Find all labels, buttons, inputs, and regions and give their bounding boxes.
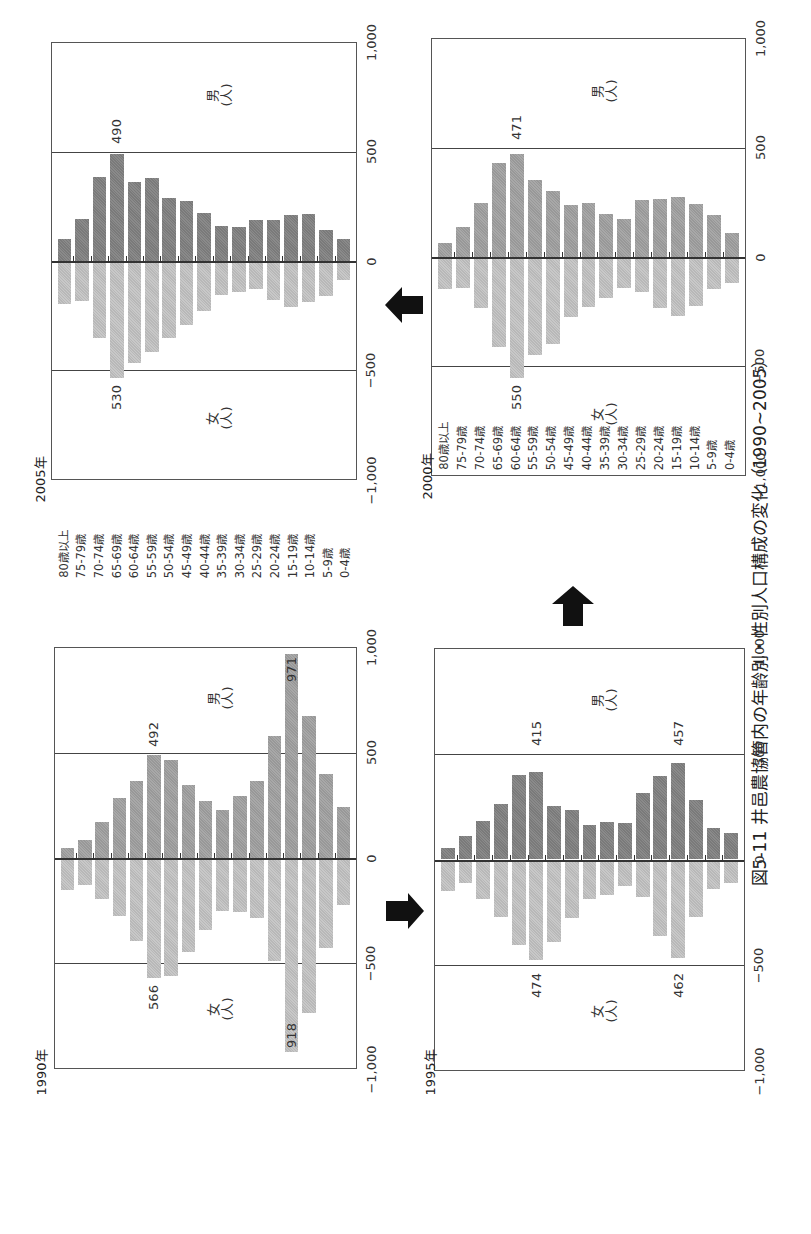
age-group-label: 75-79歳 — [456, 426, 468, 470]
bar-female — [128, 262, 142, 363]
age-group-label: 50-54歳 — [164, 534, 176, 578]
bar-female — [249, 262, 263, 289]
bar-female — [547, 861, 561, 943]
gridline-minus500 — [52, 370, 356, 371]
axis-tick — [472, 252, 473, 257]
axis-tick — [687, 855, 688, 860]
age-group-label: 45-49歳 — [181, 534, 193, 578]
age-group-label: 25-29歳 — [252, 534, 264, 578]
bar-male — [337, 239, 351, 261]
bar-male — [249, 220, 263, 261]
bar-female — [268, 859, 281, 961]
bar-male — [215, 226, 229, 261]
bar-male — [197, 213, 211, 261]
bar-male — [95, 822, 108, 858]
age-group-label: 35-39歳 — [599, 426, 611, 470]
age-group-label: 20-24歳 — [653, 426, 665, 470]
value-label: 471 — [509, 115, 524, 140]
bar-male — [653, 199, 667, 257]
bar-male — [689, 204, 703, 257]
bar-male — [268, 736, 281, 858]
bar-female — [583, 861, 597, 900]
bar-male — [164, 760, 177, 858]
bar-female — [600, 861, 614, 896]
zero-axis-line — [52, 261, 356, 263]
bar-male — [671, 197, 685, 257]
age-group-label: 55-59歳 — [528, 426, 540, 470]
bar-female — [618, 861, 632, 886]
bar-female — [215, 262, 229, 295]
unit-label-text: (人) — [221, 998, 235, 1021]
axis-tick — [73, 256, 74, 261]
unit-label-text: (人) — [604, 80, 618, 103]
gridline-minus500 — [435, 965, 744, 966]
bar-male — [494, 804, 508, 859]
bar-male — [689, 800, 703, 859]
value-label: 550 — [509, 385, 524, 410]
bar-male — [635, 200, 649, 257]
bar-male — [302, 214, 316, 261]
bar-female — [147, 859, 160, 978]
bar-female — [565, 861, 579, 918]
age-group-label: 30-34歳 — [617, 426, 629, 470]
bar-female — [130, 859, 143, 941]
bar-female — [724, 861, 738, 884]
bar-female — [267, 262, 281, 300]
bar-female — [636, 861, 650, 897]
pyramid-panel-2000: 471550男(人)女(人) — [431, 38, 746, 476]
bar-male — [337, 807, 350, 858]
bar-male — [58, 239, 72, 261]
bar-male — [180, 201, 194, 261]
male-label: 男(人) — [205, 84, 233, 107]
bar-male — [232, 227, 246, 261]
axis-tick — [544, 252, 545, 257]
bar-male — [599, 214, 613, 257]
bar-male — [145, 178, 159, 261]
axis-tick-label: 500 — [752, 135, 767, 160]
axis-tick — [454, 252, 455, 257]
bar-female — [546, 258, 560, 344]
bar-female — [216, 859, 229, 911]
age-group-label: 5-9歳 — [706, 440, 718, 470]
age-group-label: 35-39歳 — [216, 534, 228, 578]
axis-tick-label: 0 — [364, 257, 379, 265]
axis-tick — [213, 256, 214, 261]
axis-tick-label: −1,000 — [752, 1047, 767, 1095]
gridline-plus500 — [52, 152, 356, 153]
axis-tick — [705, 855, 706, 860]
bar-female — [582, 258, 596, 307]
axis-tick-label: 500 — [363, 740, 378, 765]
axis-tick — [687, 252, 688, 257]
pyramid-panel-1990: 492566971918男(人)女(人) — [54, 647, 357, 1069]
axis-tick — [492, 855, 493, 860]
axis-tick — [669, 855, 670, 860]
bar-male — [583, 825, 597, 860]
axis-tick — [195, 256, 196, 261]
bar-female — [474, 258, 488, 308]
bar-male — [319, 774, 332, 858]
axis-tick — [457, 855, 458, 860]
age-group-label: 0-4歳 — [339, 548, 351, 578]
axis-tick — [474, 855, 475, 860]
axis-tick-label: 1,000 — [753, 19, 768, 56]
zero-axis-line — [435, 860, 744, 862]
age-group-label: 5-9歳 — [322, 548, 334, 578]
bar-male — [456, 227, 470, 257]
sex-label-text: 男 — [590, 80, 604, 103]
age-group-label: 75-79歳 — [76, 534, 88, 578]
value-label: 415 — [529, 721, 544, 746]
year-label-2005: 2005年 — [30, 456, 49, 502]
bar-female — [456, 258, 470, 288]
bar-male — [617, 219, 631, 257]
bar-male — [476, 821, 490, 860]
axis-tick — [705, 252, 706, 257]
age-group-label: 0-4歳 — [724, 440, 736, 470]
bar-male — [216, 810, 229, 858]
unit-label-text: (人) — [219, 84, 233, 107]
axis-tick — [231, 853, 232, 858]
age-group-label: 70-74歳 — [474, 426, 486, 470]
bar-female — [78, 859, 91, 885]
bar-male — [565, 810, 579, 859]
axis-tick-label: −1,000 — [364, 1045, 379, 1093]
axis-tick — [178, 256, 179, 261]
